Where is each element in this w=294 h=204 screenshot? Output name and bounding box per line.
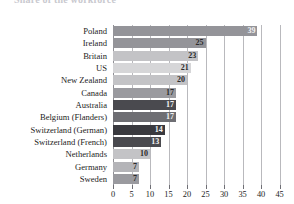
- bar-row[interactable]: 23: [113, 51, 287, 61]
- axis-tick-label: 45: [275, 190, 283, 199]
- category-label: Canada: [81, 88, 107, 98]
- axis-tick-label: 25: [201, 190, 209, 199]
- bar-row[interactable]: 7: [113, 174, 287, 184]
- axis-tick: [280, 185, 281, 189]
- bar-value-label: 17: [161, 100, 174, 110]
- bar-value-label: 23: [183, 51, 196, 61]
- category-label: Britain: [83, 51, 107, 61]
- axis-tick: [169, 185, 170, 189]
- axis-tick-label: 0: [111, 190, 115, 199]
- axis-tick: [132, 185, 133, 189]
- axis-tick: [113, 185, 114, 189]
- bar-row[interactable]: 17: [113, 88, 287, 98]
- category-label: Switzerland (French): [34, 137, 107, 147]
- axis-tick: [187, 185, 188, 189]
- axis-tick-label: 20: [183, 190, 191, 199]
- axis-tick: [224, 185, 225, 189]
- category-label: Australia: [75, 100, 107, 110]
- bar[interactable]: [113, 26, 257, 36]
- bar-row[interactable]: 39: [113, 26, 287, 36]
- category-label: Sweden: [80, 174, 107, 184]
- bar-value-label: 25: [191, 38, 204, 48]
- category-label: Ireland: [83, 38, 107, 48]
- bar-row[interactable]: 7: [113, 162, 287, 172]
- bar-row[interactable]: 13: [113, 137, 287, 147]
- bar-value-label: 39: [242, 26, 255, 36]
- axis-tick: [243, 185, 244, 189]
- category-label: Belgium (Flanders): [40, 112, 107, 122]
- bar-value-label: 21: [176, 63, 189, 73]
- bar-value-label: 7: [124, 174, 137, 184]
- plot-area: 392523212017171714131077: [113, 25, 287, 185]
- category-label: Germany: [75, 162, 107, 172]
- axis-tick-label: 35: [238, 190, 246, 199]
- axis-tick-label: 30: [220, 190, 228, 199]
- bar-row[interactable]: 17: [113, 100, 287, 110]
- bar-value-label: 13: [146, 137, 159, 147]
- axis-tick-label: 15: [164, 190, 172, 199]
- x-axis: 051015202530354045: [113, 185, 287, 187]
- category-label: New Zealand: [61, 75, 107, 85]
- axis-tick: [150, 185, 151, 189]
- category-label: Netherlands: [65, 149, 107, 159]
- axis-tick-label: 40: [257, 190, 265, 199]
- category-label: US: [96, 63, 107, 73]
- bar-value-label: 17: [161, 88, 174, 98]
- chart-title: Share of the workforce: [14, 0, 116, 5]
- axis-tick-label: 5: [129, 190, 133, 199]
- bar-row[interactable]: 14: [113, 125, 287, 135]
- bar-value-label: 14: [150, 125, 163, 135]
- bar-row[interactable]: 10: [113, 149, 287, 159]
- bar-row[interactable]: 20: [113, 75, 287, 85]
- bar-value-label: 20: [172, 75, 185, 85]
- bar-value-label: 17: [161, 112, 174, 122]
- bar-value-label: 7: [124, 162, 137, 172]
- category-label: Poland: [83, 26, 107, 36]
- bar-row[interactable]: 21: [113, 63, 287, 73]
- bar-chart: Share of the workforce PolandIrelandBrit…: [0, 0, 294, 204]
- bar-row[interactable]: 25: [113, 38, 287, 48]
- bars-group: 392523212017171714131077: [113, 25, 287, 185]
- bar-row[interactable]: 17: [113, 112, 287, 122]
- axis-tick: [261, 185, 262, 189]
- axis-tick: [206, 185, 207, 189]
- axis-tick-label: 10: [146, 190, 154, 199]
- bar-value-label: 10: [135, 149, 148, 159]
- category-axis-labels: PolandIrelandBritainUSNew ZealandCanadaA…: [0, 25, 110, 185]
- category-label: Switzerland (German): [30, 125, 107, 135]
